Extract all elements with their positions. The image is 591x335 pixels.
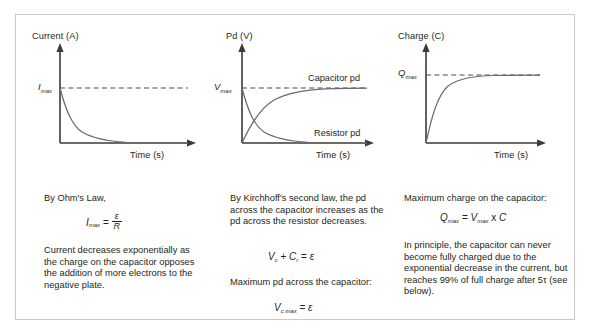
chart-current-imax-label: Imax bbox=[38, 81, 52, 94]
diagram-frame: Current (A) Time (s) Imax By Ohm's Law, … bbox=[15, 14, 575, 320]
column-charge-paragraph-2: In principle, the capacitor can never be… bbox=[404, 240, 576, 298]
column-pd-paragraph-2: Maximum pd across the capacitor: bbox=[230, 277, 400, 289]
eq-k-term1-symbol: V bbox=[268, 251, 275, 262]
chart-pd: Pd (V) Time (s) Vmax Capacitor pd Resist… bbox=[212, 15, 390, 175]
chart-pd-x-axis-title: Time (s) bbox=[316, 150, 350, 160]
chart-pd-resistor-label: Resistor pd bbox=[314, 128, 360, 138]
chart-charge-y-axis-title: Charge (C) bbox=[398, 31, 444, 41]
chart-charge-x-axis-title: Time (s) bbox=[494, 150, 528, 160]
eq-k-term2-subscript: r bbox=[296, 257, 298, 263]
eq-imax-subscript: max bbox=[89, 222, 100, 228]
eq-k-term1-subscript: c bbox=[275, 257, 278, 263]
eq-qmax-subscript: max bbox=[448, 218, 459, 224]
eq-qmax-symbol: Q bbox=[440, 212, 448, 223]
equation-vcmax: Vc max = ε bbox=[274, 302, 313, 314]
chart-current-x-axis-title: Time (s) bbox=[130, 150, 164, 160]
imax-subscript: max bbox=[41, 88, 52, 94]
column-current-paragraph: Current decreases exponentially as the c… bbox=[44, 245, 202, 291]
eq-vcmax-rhs: ε bbox=[308, 302, 312, 313]
eq-k-equals: = bbox=[301, 251, 307, 262]
column-charge-paragraph-1: Maximum charge on the capacitor: bbox=[404, 193, 574, 205]
column-current-intro: By Ohm's Law, bbox=[44, 193, 204, 205]
chart-pd-capacitor-label: Capacitor pd bbox=[308, 73, 360, 83]
equation-kirchhoff: Vc + Cr = ε bbox=[268, 251, 314, 263]
column-pd-paragraph-1: By Kirchhoff's second law, the pd across… bbox=[230, 193, 390, 228]
chart-current-y-axis-title: Current (A) bbox=[32, 31, 79, 41]
qmax-subscript: max bbox=[405, 74, 416, 80]
eq-k-rhs: ε bbox=[310, 251, 314, 262]
eq-qmax-vmax-subscript: max bbox=[477, 218, 488, 224]
chart-current: Current (A) Time (s) Imax bbox=[16, 15, 212, 175]
eq-qmax-equals: = bbox=[462, 212, 468, 223]
eq-imax-numerator: ε bbox=[112, 212, 123, 221]
eq-imax-denominator: R bbox=[112, 221, 123, 231]
equation-imax: Imax = ε R bbox=[86, 213, 122, 233]
eq-imax-equals: = bbox=[103, 217, 109, 228]
eq-vcmax-subscript: c max bbox=[281, 308, 297, 314]
chart-charge: Charge (C) Time (s) Qmax bbox=[390, 15, 576, 175]
chart-charge-qmax-label: Qmax bbox=[398, 67, 417, 80]
eq-vcmax-symbol: V bbox=[274, 302, 281, 313]
eq-k-plus: + bbox=[280, 251, 286, 262]
equation-qmax: Qmax = Vmax x C bbox=[440, 212, 506, 224]
eq-imax-fraction: ε R bbox=[112, 212, 123, 232]
eq-qmax-times: x bbox=[491, 212, 496, 223]
chart-pd-y-axis-title: Pd (V) bbox=[226, 31, 253, 41]
eq-qmax-capacitance: C bbox=[499, 212, 506, 223]
chart-pd-vmax-label: Vmax bbox=[214, 81, 232, 94]
vmax-subscript: max bbox=[220, 88, 231, 94]
eq-vcmax-equals: = bbox=[299, 302, 305, 313]
